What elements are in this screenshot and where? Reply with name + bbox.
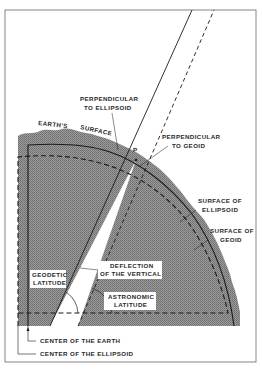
astronomic-label-1: ASTRONOMIC: [108, 293, 154, 300]
perp-geoid-label-1: PERPENDICULAR: [162, 133, 221, 140]
point-p-marker: [135, 159, 138, 162]
center-earth-label: CENTER OF THE EARTH: [40, 337, 121, 344]
deflection-label-1: DEFLECTION: [110, 262, 154, 269]
geodetic-label-1: GEODETIC: [32, 271, 68, 278]
geodetic-label-2: LATITUDE: [33, 279, 66, 286]
surface-geoid-label-1: SURFACE OF: [210, 227, 254, 234]
center-ellipsoid-label: CENTER OF THE ELLIPSOID: [40, 350, 134, 357]
surface-ellipsoid-label-1: SURFACE OF: [198, 197, 242, 204]
astronomic-label-2: LATITUDE: [114, 301, 147, 308]
point-p-label: P: [133, 146, 138, 153]
perp-ellipsoid-label-1: PERPENDICULAR: [80, 95, 139, 102]
deflection-label-2: OF THE VERTICAL: [100, 270, 161, 277]
surface-geoid-label-2: GEOID: [220, 236, 242, 243]
latitude-diagram: P PERPENDICULAR TO ELLIPSOID EARTH'S SUR…: [0, 0, 262, 374]
surface-ellipsoid-label-2: ELLIPSOID: [202, 206, 238, 213]
perp-ellipsoid-label-2: TO ELLIPSOID: [84, 104, 132, 111]
perp-geoid-label-2: TO GEOID: [172, 142, 205, 149]
